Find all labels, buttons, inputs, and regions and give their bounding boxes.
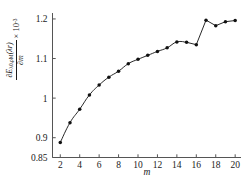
x-tick-label: 4 [77, 160, 82, 170]
data-point-marker [97, 83, 101, 87]
x-axis-title: m [144, 167, 151, 177]
chart-axes [53, 13, 242, 158]
y-tick-label: 0.9 [36, 133, 48, 143]
x-tick-label: 12 [153, 160, 163, 170]
x-tick-label: 8 [116, 160, 121, 170]
x-tick-label: 20 [230, 160, 240, 170]
y-tick-label: 1 [43, 94, 48, 104]
data-point-marker [88, 93, 92, 97]
data-point-marker [78, 107, 82, 111]
data-point-marker [224, 20, 228, 24]
data-point-marker [204, 18, 208, 22]
y-tick-labels: 0.850.911.11.2 [31, 14, 48, 163]
data-point-marker [195, 43, 199, 47]
x-tick-label: 16 [192, 160, 202, 170]
line-chart-plot: 0.850.911.11.2 2468101214161820 m [0, 0, 244, 184]
data-series-markers [59, 18, 237, 144]
data-point-marker [233, 19, 237, 23]
x-tick-label: 2 [58, 160, 63, 170]
y-tick-label: 1.1 [36, 54, 48, 64]
data-point-marker [127, 62, 131, 66]
data-series-line [60, 20, 235, 142]
x-tick-label: 10 [133, 160, 143, 170]
data-point-marker [185, 41, 189, 45]
data-point-marker [136, 58, 140, 62]
chart-figure: 0.850.911.11.2 2468101214161820 m ∂Eλ0,ρ… [0, 0, 244, 184]
x-tick-label: 18 [211, 160, 221, 170]
x-tick-label: 14 [172, 160, 182, 170]
data-point-marker [59, 141, 63, 145]
x-tick-label: 6 [97, 160, 102, 170]
data-point-marker [175, 40, 179, 44]
y-tick-label: 0.85 [31, 153, 48, 163]
data-point-marker [146, 54, 150, 58]
data-point-marker [117, 69, 121, 73]
data-point-marker [156, 50, 160, 54]
data-point-marker [165, 46, 169, 50]
y-tick-label: 1.2 [36, 14, 48, 24]
data-point-marker [107, 75, 111, 79]
data-point-marker [68, 121, 72, 125]
data-point-marker [214, 24, 218, 28]
